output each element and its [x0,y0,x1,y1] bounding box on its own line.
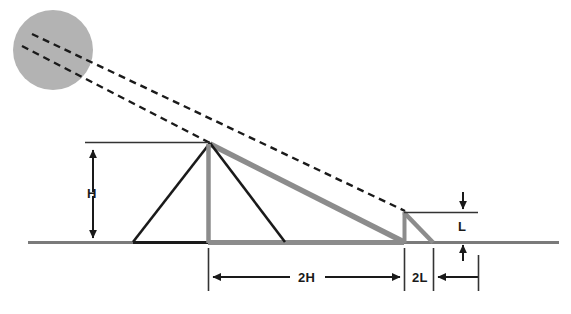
dashed-ray-to-apex-icon [22,46,212,144]
pyramid-right-slope [210,143,285,242]
label-stick-shadow-span-2l: 2L [412,270,428,285]
diagram-svg [0,0,571,314]
label-height-h: H [87,186,97,201]
diagram-canvas: H 2H 2L L [0,0,571,314]
pyramid-left-slope [133,143,210,242]
dashed-ray-to-stick-top-icon [32,34,405,211]
label-stick-height-l: L [458,219,466,234]
stick-shadow-hypotenuse [404,213,433,243]
sun-circle-icon [13,10,93,90]
label-base-span-2h: 2H [298,270,315,285]
pyramid-shadow-hypotenuse [210,144,404,242]
